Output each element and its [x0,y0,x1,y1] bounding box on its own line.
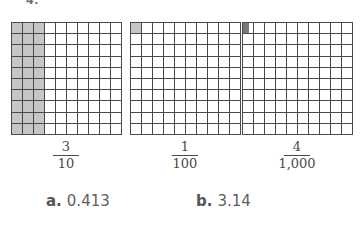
grid-cell [186,113,197,124]
grid-cell [78,79,89,90]
grid-cell [219,23,230,34]
grid-cell [342,101,353,112]
grid-cell [34,124,45,135]
grid-cell [12,23,23,34]
grid-cell [56,45,67,56]
grid-cell [186,124,197,135]
grid-cell [89,68,100,79]
grid-cell [320,68,331,79]
grid-cell [254,101,265,112]
grid-cell [230,68,241,79]
grid-cell [320,90,331,101]
grid-cell [142,23,153,34]
grid-cell [254,113,265,124]
grid-cell [309,101,320,112]
grid-cell [230,90,241,101]
grid-cell [34,79,45,90]
grid-cell [230,79,241,90]
grid-cell [219,34,230,45]
grid-cell [131,68,142,79]
grid-cell [208,68,219,79]
grid-cell [142,113,153,124]
grid-cell [111,101,122,112]
grid-cell [197,79,208,90]
grid-cell [111,124,122,135]
grid-cell [164,113,175,124]
grid-cell [111,68,122,79]
grid-cell [186,23,197,34]
grid-cell [111,79,122,90]
grid-cell [243,34,254,45]
grid-cell [153,79,164,90]
grid-cell [23,57,34,68]
grid-cell [67,34,78,45]
grid-cell [131,113,142,124]
grid-cell [287,34,298,45]
grid-cell [100,101,111,112]
grid-cell [287,23,298,34]
grid-cell [67,68,78,79]
grid-cell [131,124,142,135]
grid-cell [331,68,342,79]
grid-cell [309,34,320,45]
grid-cell [309,57,320,68]
grid-cell [342,90,353,101]
grid-cell [243,79,254,90]
grid-cell [12,57,23,68]
grid-cell [100,79,111,90]
grid-cell [164,34,175,45]
grid-cell [298,124,309,135]
grid-cell [34,68,45,79]
grid-cell [331,23,342,34]
grid-cell [287,90,298,101]
grid-cell [56,23,67,34]
grid-cell [100,68,111,79]
grid-cell [78,90,89,101]
grid-cell [23,23,34,34]
grid-cell [56,34,67,45]
grid-cell [153,45,164,56]
grid-cell [111,113,122,124]
grid-cell [142,57,153,68]
grid-cell [197,45,208,56]
grid-cell [89,57,100,68]
grid-cell [219,101,230,112]
grid-cell [309,68,320,79]
grid-model-tenths [11,22,122,135]
grid-cell [298,57,309,68]
grid-cell [12,34,23,45]
fraction-denominator: 10 [11,157,121,171]
grid-cell [12,68,23,79]
grid-cell [56,113,67,124]
grid-cell [100,23,111,34]
grid-cell [34,90,45,101]
answer-choice-b[interactable]: b.3.14 [196,192,251,210]
grid-cell [208,90,219,101]
grid-cell [230,34,241,45]
grid-cell [131,23,142,34]
grid-cell [197,68,208,79]
grid-cell [12,79,23,90]
answer-choice-a[interactable]: a.0.413 [46,192,110,210]
grid-cell [164,57,175,68]
grid-cell [67,23,78,34]
grid-thousandths [242,22,353,135]
grid-cell [197,23,208,34]
grid-cell [78,57,89,68]
grid-cell [287,101,298,112]
grid-model-thousandths [242,22,353,135]
grid-cell [298,23,309,34]
grid-cell [34,45,45,56]
grid-cell [12,124,23,135]
grid-cell [276,68,287,79]
grid-cell [298,34,309,45]
grid-cell [23,101,34,112]
grid-cell [89,113,100,124]
grid-cell [12,101,23,112]
grid-cell [78,124,89,135]
grid-cell [78,68,89,79]
grid-cell [219,124,230,135]
grid-cell [197,113,208,124]
grid-cell [197,124,208,135]
grid-cell [89,23,100,34]
